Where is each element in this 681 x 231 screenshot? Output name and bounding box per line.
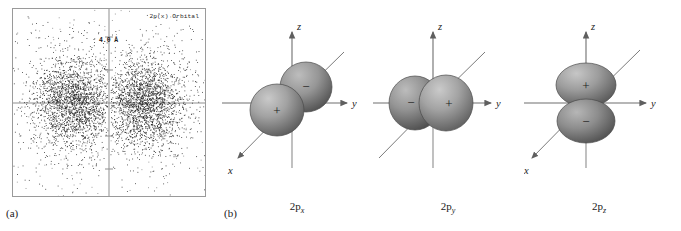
caption-prefix-2pz: 2p [592, 200, 603, 212]
scatter-plot-frame: 2p(x) Orbital 4.0 Å [12, 8, 206, 197]
lobe-sign-negative-2pz: − [582, 114, 589, 129]
orbital-caption-2py: 2py [373, 200, 523, 215]
caption-subscript-2pz: z [603, 206, 606, 215]
lobe-sign-positive-2py: + [445, 96, 452, 111]
orbital-2pz-svg: + − z y x [524, 8, 674, 198]
scale-annotation-label: 4.0 Å [99, 37, 118, 44]
orbital-caption-2px: 2px [222, 200, 372, 215]
caption-prefix-2px: 2p [290, 200, 301, 212]
caption-subscript-2py: y [452, 206, 456, 215]
y-axis-label-2pz: y [650, 98, 656, 109]
orbital-plot-title: 2p(x) Orbital [149, 13, 199, 20]
orbital-diagram-2px: − + z y x 2px [222, 8, 372, 223]
panel-a-dot-density-plot: 2p(x) Orbital 4.0 Å [12, 8, 206, 197]
lobe-sign-positive-2pz: + [582, 78, 589, 93]
x-axis-label-2px: x [227, 165, 233, 176]
panel-letter-b: (b) [224, 207, 237, 219]
orbital-caption-2pz: 2pz [524, 200, 674, 215]
orbital-2px-svg: − + z y x [222, 8, 372, 198]
caption-prefix-2py: 2p [441, 200, 452, 212]
caption-subscript-2px: x [301, 206, 305, 215]
z-axis-label-2px: z [296, 21, 301, 32]
orbital-diagram-2py: − + z y 2py [373, 8, 523, 223]
z-axis-label-2py: z [437, 21, 442, 32]
panel-letter-a: (a) [6, 207, 18, 219]
orbital-2py-svg: − + z y [373, 8, 523, 198]
lobe-sign-negative-2px: − [302, 79, 309, 94]
lobe-sign-positive-2px: + [273, 103, 280, 118]
z-axis-label-2pz: z [590, 21, 595, 32]
orbital-diagram-2pz: + − z y x 2pz [524, 8, 674, 223]
y-axis-label-2py: y [495, 98, 501, 109]
lobe-sign-negative-2py: − [407, 95, 414, 110]
panel-b-orbital-diagrams: − + z y x 2px [218, 8, 678, 223]
p-orbital-figure: 2p(x) Orbital 4.0 Å (a) [0, 0, 681, 231]
y-axis-label-2px: y [351, 98, 357, 109]
x-axis-label-2pz: x [524, 165, 529, 176]
